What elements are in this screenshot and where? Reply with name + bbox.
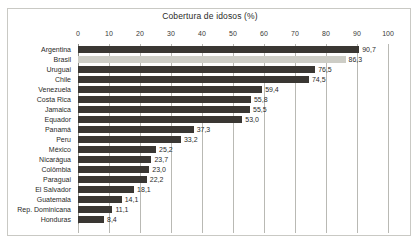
bar-paraguai [78,176,147,183]
x-tick-label-50: 50 [229,30,237,37]
x-tick-label-70: 70 [291,30,299,37]
y-axis-category-labels: ArgentinaBrasilUruguaiChileVenezuelaCost… [0,44,75,224]
y-label-el-salvador: El Salvador [35,185,71,194]
bar-row: 25,2 [78,146,388,153]
bar-el-salvador [78,186,134,193]
bar-value-label: 55,5 [250,106,267,113]
bar-panam- [78,126,194,133]
y-label-guatemala: Guatemala [37,195,71,204]
y-label-jamaica: Jamaica [45,105,71,114]
chart-title: Cobertura de idosos (%) [0,11,420,21]
bar-row: 23,7 [78,156,388,163]
x-tick-label-0: 0 [76,30,80,37]
bar-value-label: 23,7 [151,156,168,163]
bar-row: 18,1 [78,186,388,193]
bar-value-label: 8,4 [104,216,117,223]
tick-stub-40 [202,224,203,233]
x-tick-label-40: 40 [198,30,206,37]
bar-nicar-gua [78,156,151,163]
y-label-rep-dominicana: Rep. Dominicana [17,205,71,214]
bar-row: 14,1 [78,196,388,203]
gridline-100 [388,44,389,224]
bar-row: 37,3 [78,126,388,133]
x-axis-tick-labels: 0102030405060708090100 [78,30,388,42]
tick-stub-30 [171,224,172,233]
bar-row: 76,5 [78,66,388,73]
bar-row: 23,0 [78,166,388,173]
tick-stub-60 [264,224,265,233]
bar-m-xico [78,146,156,153]
bar-value-label: 23,0 [149,166,166,173]
y-label-col-mbia: Colômbia [41,165,71,174]
bar-row: 8,4 [78,216,388,223]
tick-stub-0 [78,224,79,233]
bar-argentina [78,46,359,53]
bar-row: 86,3 [78,56,388,63]
bar-value-label: 11,1 [112,206,128,213]
bar-value-label: 59,4 [262,86,279,93]
bar-value-label: 33,2 [181,136,198,143]
bar-jamaica [78,106,250,113]
bar-row: 53,0 [78,116,388,123]
bar-row: 55,8 [78,96,388,103]
bar-value-label: 18,1 [134,186,151,193]
bar-row: 11,1 [78,206,388,213]
bar-honduras [78,216,104,223]
x-tick-label-60: 60 [260,30,268,37]
bar-row: 59,4 [78,86,388,93]
x-tick-label-20: 20 [136,30,144,37]
bar-equador [78,116,242,123]
bar-row: 74,5 [78,76,388,83]
bar-value-label: 53,0 [242,116,259,123]
x-tick-label-30: 30 [167,30,175,37]
bar-venezuela [78,86,262,93]
bar-peru [78,136,181,143]
bar-value-label: 90,7 [359,46,376,53]
bar-rep-dominicana [78,206,112,213]
bar-uruguai [78,66,315,73]
y-label-peru: Peru [56,135,71,144]
tick-stub-100 [388,224,389,233]
bar-costa-rica [78,96,251,103]
bar-col-mbia [78,166,149,173]
y-label-panam-: Panamá [45,125,71,134]
bar-row: 22,2 [78,176,388,183]
bar-chile [78,76,309,83]
y-label-m-xico: México [49,145,71,154]
y-label-costa-rica: Costa Rica [37,95,71,104]
x-tick-label-80: 80 [322,30,330,37]
tick-stub-20 [140,224,141,233]
tick-stub-90 [357,224,358,233]
bar-brasil [78,56,346,63]
y-label-nicar-gua: Nicarágua [39,155,71,164]
tick-stub-10 [109,224,110,233]
y-label-venezuela: Venezuela [38,85,71,94]
chart-figure: Cobertura de idosos (%) 0102030405060708… [0,0,420,247]
bar-value-label: 25,2 [156,146,173,153]
y-label-equador: Equador [45,115,71,124]
y-label-argentina: Argentina [41,45,71,54]
bar-value-label: 74,5 [309,76,326,83]
plot-area: 90,786,376,574,559,455,855,553,037,333,2… [78,44,388,224]
bar-row: 55,5 [78,106,388,113]
x-tick-label-90: 90 [353,30,361,37]
bar-row: 33,2 [78,136,388,143]
y-label-paraguai: Paraguai [43,175,71,184]
tick-stub-80 [326,224,327,233]
y-label-uruguai: Uruguai [46,65,71,74]
bar-value-label: 86,3 [346,56,363,63]
bars-layer: 90,786,376,574,559,455,855,553,037,333,2… [78,44,388,224]
bar-row: 90,7 [78,46,388,53]
y-label-chile: Chile [55,75,71,84]
bar-value-label: 22,2 [147,176,164,183]
y-label-brasil: Brasil [53,55,71,64]
bar-value-label: 76,5 [315,66,332,73]
bar-value-label: 55,8 [251,96,268,103]
x-tick-label-100: 100 [382,30,394,37]
bar-value-label: 14,1 [122,196,139,203]
y-label-honduras: Honduras [41,215,71,224]
x-tick-label-10: 10 [105,30,113,37]
bar-guatemala [78,196,122,203]
tick-stub-50 [233,224,234,233]
bar-value-label: 37,3 [194,126,211,133]
